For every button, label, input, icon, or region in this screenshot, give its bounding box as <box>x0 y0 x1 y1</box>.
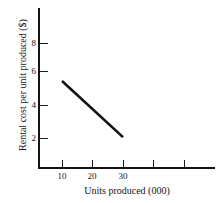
chart-container: 8 6 4 2 10 20 30 Rental cost per unit pr… <box>0 0 221 203</box>
rental-cost-line <box>62 81 123 137</box>
x-axis-title: Units produced (000) <box>39 186 215 196</box>
plot-area <box>0 0 221 203</box>
y-axis-title: Rental cost per unit produced ($) <box>18 0 28 170</box>
